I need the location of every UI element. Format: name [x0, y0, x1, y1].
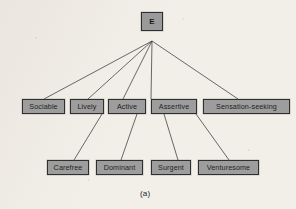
node-sensation-seeking[interactable]: Sensation-seeking: [203, 99, 290, 114]
node-active-label: Active: [117, 103, 137, 110]
node-sociable-label: Sociable: [29, 103, 57, 110]
node-dominant-label: Dominant: [104, 164, 136, 171]
node-assertive[interactable]: Assertive: [151, 99, 197, 114]
node-assertive-label: Assertive: [159, 103, 189, 110]
node-root-e-label: E: [149, 18, 154, 26]
edge-active-to-dominant: [121, 114, 137, 160]
node-root-e[interactable]: E: [141, 12, 163, 31]
node-lively-label: Lively: [78, 103, 97, 110]
node-sensation-seeking-label: Sensation-seeking: [216, 103, 277, 110]
node-lively[interactable]: Lively: [70, 99, 104, 114]
edge-assertive-to-surgent: [164, 114, 178, 160]
node-surgent-label: Surgent: [158, 164, 184, 171]
node-surgent[interactable]: Surgent: [151, 160, 191, 175]
node-carefree[interactable]: Carefree: [47, 160, 89, 175]
node-dominant[interactable]: Dominant: [96, 160, 143, 175]
figure-caption: (a): [140, 189, 150, 198]
node-venturesome[interactable]: Venturesome: [198, 160, 259, 175]
edge-assertive-to-venturesome: [196, 114, 229, 160]
node-venturesome-label: Venturesome: [207, 164, 250, 171]
edge-e-to-active: [123, 41, 152, 99]
node-active[interactable]: Active: [108, 99, 146, 114]
edge-lively-to-carefree: [74, 114, 102, 160]
node-carefree-label: Carefree: [54, 164, 83, 171]
edge-e-to-assertive: [151, 41, 152, 99]
edge-e-to-sensation-seeking: [152, 41, 238, 99]
node-sociable[interactable]: Sociable: [22, 99, 65, 114]
figure-canvas: E Sociable Lively Active Assertive Sensa…: [0, 0, 296, 209]
